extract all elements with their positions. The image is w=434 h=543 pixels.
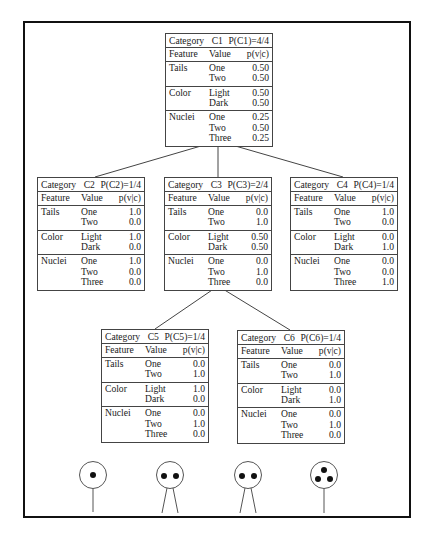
value-col-label: Value xyxy=(209,49,245,59)
category-name: C1 xyxy=(212,36,223,46)
feature-col-label: Feature xyxy=(169,49,209,59)
category-label: Category xyxy=(241,333,276,343)
feature-name: Nuclei xyxy=(294,256,334,287)
prob-col-label: p(v|c) xyxy=(117,193,141,203)
value: Three xyxy=(334,277,370,287)
feature-row-nuclei: Nuclei OneTwoThree 0.01.00.0 xyxy=(238,407,344,442)
category-name: C6 xyxy=(284,333,295,343)
value-col-label: Value xyxy=(334,193,370,203)
category-probability: P(C1)=4/4 xyxy=(228,36,269,46)
value: Two xyxy=(209,73,245,83)
probability: 1.0 xyxy=(244,217,268,227)
prob-col-label: p(v|c) xyxy=(245,49,269,59)
probability: 0.0 xyxy=(244,277,268,287)
category-node-c5: Category C5 P(C5)=1/4 Feature Value p(v|… xyxy=(101,329,209,443)
category-probability: P(C5)=1/4 xyxy=(164,332,205,342)
value: Two xyxy=(334,217,370,227)
value: Three xyxy=(209,133,245,143)
value: Two xyxy=(208,217,244,227)
feature-row-tails: Tails OneTwo 0.01.0 xyxy=(238,359,344,383)
category-name: C2 xyxy=(84,180,95,190)
column-header: Feature Value p(v|c) xyxy=(166,48,272,61)
category-probability: P(C3)=2/4 xyxy=(227,180,268,190)
probability: 1.0 xyxy=(370,242,394,252)
value-col-label: Value xyxy=(145,345,181,355)
feature-row-nuclei: Nuclei OneTwoThree 0.01.00.0 xyxy=(165,254,271,289)
value-col-label: Value xyxy=(208,193,244,203)
probability: 0.0 xyxy=(117,277,141,287)
feature-name: Tails xyxy=(169,63,209,84)
probability: 0.50 xyxy=(245,98,269,108)
feature-name: Nuclei xyxy=(41,256,81,287)
probability: 0.0 xyxy=(370,217,394,227)
prob-col-label: p(v|c) xyxy=(317,346,341,356)
category-probability: P(C4)=1/4 xyxy=(353,180,394,190)
feature-name: Nuclei xyxy=(105,408,145,439)
feature-name: Color xyxy=(294,232,334,253)
column-header: Feature Value p(v|c) xyxy=(165,192,271,205)
category-name: C5 xyxy=(148,332,159,342)
node-header: Category C3 P(C3)=2/4 xyxy=(165,178,271,192)
feature-name: Color xyxy=(168,232,208,253)
prob-col-label: p(v|c) xyxy=(181,345,205,355)
feature-row-tails: Tails OneTwo 0.01.0 xyxy=(102,358,208,382)
feature-row-tails: Tails OneTwo 1.00.0 xyxy=(291,206,397,230)
node-header: Category C5 P(C5)=1/4 xyxy=(102,330,208,344)
category-node-c3: Category C3 P(C3)=2/4 Feature Value p(v|… xyxy=(164,177,272,291)
category-node-c6: Category C6 P(C6)=1/4 Feature Value p(v|… xyxy=(237,330,345,444)
feature-name: Tails xyxy=(105,359,145,380)
feature-col-label: Feature xyxy=(41,193,81,203)
value: Dark xyxy=(209,98,245,108)
prob-col-label: p(v|c) xyxy=(370,193,394,203)
probability: 1.0 xyxy=(181,369,205,379)
feature-row-color: Color LightDark 1.00.0 xyxy=(38,230,144,255)
value: Three xyxy=(145,429,181,439)
feature-name: Color xyxy=(241,385,281,406)
category-label: Category xyxy=(105,332,140,342)
probability: 0.0 xyxy=(117,242,141,252)
value-col-label: Value xyxy=(281,346,317,356)
feature-row-nuclei: Nuclei OneTwoThree 0.00.01.0 xyxy=(291,254,397,289)
category-node-c4: Category C4 P(C4)=1/4 Feature Value p(v|… xyxy=(290,177,398,291)
feature-row-tails: Tails OneTwo 0.500.50 xyxy=(166,62,272,86)
category-label: Category xyxy=(168,180,203,190)
feature-name: Tails xyxy=(41,207,81,228)
feature-col-label: Feature xyxy=(168,193,208,203)
feature-name: Tails xyxy=(168,207,208,228)
value: Dark xyxy=(334,242,370,252)
column-header: Feature Value p(v|c) xyxy=(38,192,144,205)
category-node-c2: Category C2 P(C2)=1/4 Feature Value p(v|… xyxy=(37,177,145,291)
column-header: Feature Value p(v|c) xyxy=(238,345,344,358)
feature-row-color: Color LightDark 0.01.0 xyxy=(238,383,344,408)
feature-col-label: Feature xyxy=(294,193,334,203)
value: Three xyxy=(81,277,117,287)
feature-name: Color xyxy=(169,88,209,109)
node-header: Category C4 P(C4)=1/4 xyxy=(291,178,397,192)
feature-row-color: Color LightDark 0.500.50 xyxy=(165,230,271,255)
feature-row-tails: Tails OneTwo 0.01.0 xyxy=(165,206,271,230)
category-name: C3 xyxy=(211,180,222,190)
node-header: Category C2 P(C2)=1/4 xyxy=(38,178,144,192)
feature-name: Nuclei xyxy=(168,256,208,287)
probability: 0.50 xyxy=(245,73,269,83)
category-node-c1: Category C1 P(C1)=4/4 Feature Value p(v|… xyxy=(165,33,273,147)
value: Three xyxy=(208,277,244,287)
feature-col-label: Feature xyxy=(105,345,145,355)
feature-name: Nuclei xyxy=(241,409,281,440)
feature-row-nuclei: Nuclei OneTwoThree 0.250.500.25 xyxy=(166,110,272,145)
value: Two xyxy=(145,369,181,379)
probability: 0.50 xyxy=(244,242,268,252)
node-header: Category C6 P(C6)=1/4 xyxy=(238,331,344,345)
column-header: Feature Value p(v|c) xyxy=(102,344,208,357)
feature-name: Nuclei xyxy=(169,112,209,143)
category-name: C4 xyxy=(337,180,348,190)
category-label: Category xyxy=(169,36,204,46)
category-probability: P(C2)=1/4 xyxy=(100,180,141,190)
category-label: Category xyxy=(41,180,76,190)
prob-col-label: p(v|c) xyxy=(244,193,268,203)
node-header: Category C1 P(C1)=4/4 xyxy=(166,34,272,48)
value: Dark xyxy=(281,395,317,405)
feature-col-label: Feature xyxy=(241,346,281,356)
category-probability: P(C6)=1/4 xyxy=(300,333,341,343)
feature-name: Tails xyxy=(241,360,281,381)
